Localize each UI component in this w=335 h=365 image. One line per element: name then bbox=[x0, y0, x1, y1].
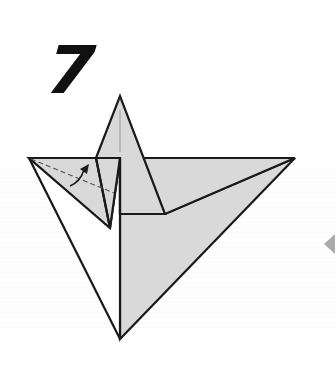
next-step-figure-partial bbox=[324, 234, 335, 254]
origami-diagram bbox=[0, 0, 335, 365]
